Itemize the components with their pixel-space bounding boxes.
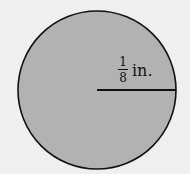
circle-diagram: 1 8 in.	[0, 0, 190, 174]
unit-label: in.	[132, 61, 153, 80]
fraction-denominator: 8	[119, 71, 127, 85]
fraction-numerator: 1	[119, 55, 127, 69]
